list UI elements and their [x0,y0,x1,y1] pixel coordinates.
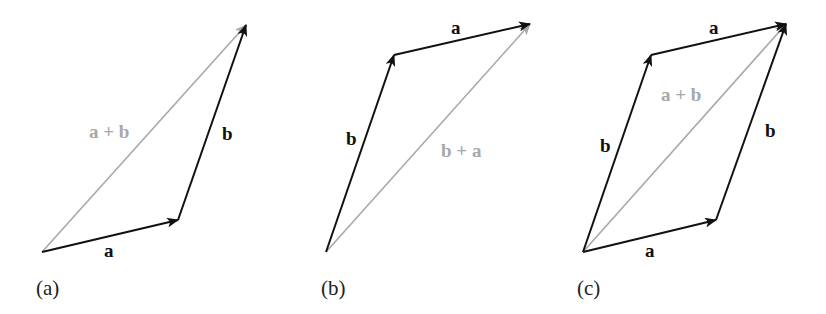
vector-b [178,25,246,220]
vector-b-left [583,55,651,252]
panel-caption: (a) [36,276,59,300]
vector-b-label: b [346,128,357,149]
vector-b-label: b [222,123,233,144]
sum-label: a + b [661,84,701,105]
vector-a-top-label: a [709,17,719,38]
vector-a-label: a [451,17,461,38]
vector-a-bottom-label: a [645,240,655,261]
sum-vector-b-plus-a [326,24,530,252]
vector-a-label: a [104,240,114,261]
sum-vector-a-plus-b [583,24,786,252]
panel-a: a + b a b (a) [36,25,246,300]
vector-a-top [651,24,786,55]
vector-addition-diagram: a + b a b (a) a b b + a (b) a a + b b b … [0,0,826,314]
vector-a [394,24,530,55]
sum-label: a + b [89,121,129,142]
panel-c: a a + b b b a (c) [577,17,786,300]
panel-b: a b b + a (b) [321,17,530,300]
panel-caption: (b) [321,276,346,300]
vector-b [326,55,394,252]
sum-label: b + a [441,140,482,161]
panel-caption: (c) [577,276,600,300]
vector-b-left-label: b [600,135,611,156]
vector-b-right-label: b [765,120,776,141]
sum-vector-a-plus-b [42,25,246,252]
